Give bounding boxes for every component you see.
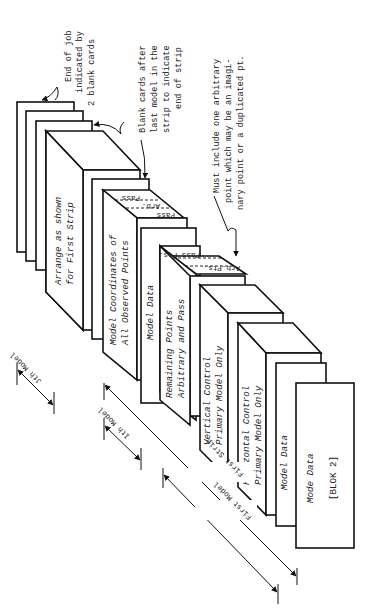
svg-text:Blank cards after: Blank cards after	[138, 45, 148, 133]
model-data-2-label: Model Data	[145, 285, 156, 340]
svg-text:strip to indicate: strip to indicate	[162, 45, 172, 133]
remaining-points-line-1: Remaining Points	[164, 310, 175, 398]
model-coordinates-line-1: Model Coordinates of	[108, 234, 119, 345]
svg-text:2 blank cards: 2 blank cards	[87, 39, 97, 106]
arrange-line-2: for First Strip	[65, 202, 76, 285]
svg-text:indicated by: indicated by	[75, 31, 85, 93]
tab-pass-top: Pass	[122, 194, 140, 202]
svg-text:Arrange as shown: Arrange as shown	[53, 197, 64, 286]
svg-text:nary point or a duplicated pt.: nary point or a duplicated pt.	[236, 55, 246, 210]
svg-text:Must include one arbitrary: Must include one arbitrary	[212, 59, 222, 193]
vertical-control-line-2: Primary Model Only	[214, 345, 225, 445]
annotation-arbitrary-point: Must include one arbitrary point which m…	[212, 55, 246, 256]
tab-arb: Arb.	[142, 202, 160, 210]
annotation-end-of-job: End of job indicated by 2 blank cards	[42, 30, 97, 106]
svg-text:for First Strip: for First Strip	[65, 202, 76, 285]
vertical-control-line-1: Vertical Control	[202, 357, 213, 445]
tab-pass-bottom: Pass	[157, 211, 175, 219]
card-deck-diagram: Arrange as shown for First Strip Pass Ar…	[0, 0, 369, 614]
dimension-jth-model: Jth Model	[8, 350, 54, 414]
card-blok2: Mode Data [BLOK 2]	[296, 383, 354, 548]
svg-text:point which may be an imagi-: point which may be an imagi-	[224, 59, 234, 203]
svg-text:end of strip: end of strip	[174, 47, 184, 109]
svg-text:End of job: End of job	[64, 30, 74, 82]
blok2-line-1: Mode Data	[305, 453, 316, 503]
remaining-points-line-2: Arbitrary and Pass	[176, 299, 187, 399]
svg-text:last model in the: last model in the	[150, 45, 160, 133]
tab-arb-pts: Arb.Pts.	[204, 264, 240, 272]
model-coordinates-line-2: All Observed Points	[120, 240, 131, 346]
horizontal-control-line-2: Primary Model Only	[253, 385, 264, 485]
blok2-line-2: [BLOK 2]	[328, 456, 339, 500]
arrange-line-1: Arrange as shown	[53, 197, 64, 286]
model-data-1-label: Model Data	[279, 435, 290, 490]
jth-model-label: Jth Model	[8, 350, 43, 385]
tab-pass-pts: Pass Pts.	[159, 251, 200, 259]
